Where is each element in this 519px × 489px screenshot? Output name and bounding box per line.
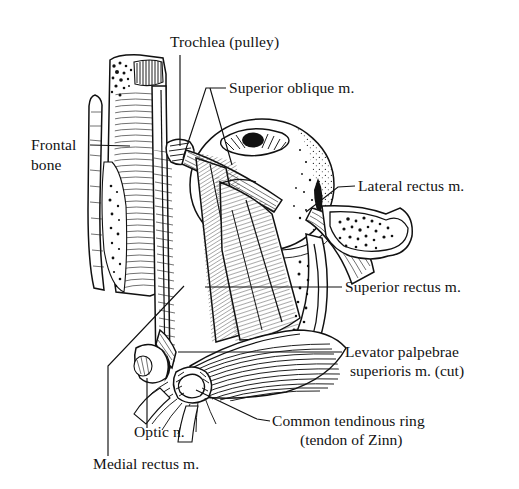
frontal-bone-label-line2: bone [31,156,62,173]
superior-rectus-label: Superior rectus m. [345,278,461,295]
anatomy-figure: Trochlea (pulley) Superior oblique m. Fr… [0,0,519,489]
levator-palpebrae-label: Levator palpebrae [345,343,459,360]
trochlea-label: Trochlea (pulley) [170,33,279,51]
levator-palpebrae-label-line2: superioris m. (cut) [350,362,464,380]
pupil [242,133,264,148]
supraorbital-canal [134,60,163,86]
anatomy-illustration: Trochlea (pulley) Superior oblique m. Fr… [0,0,519,489]
superior-oblique-label: Superior oblique m. [229,79,354,96]
medial-rectus-label: Medial rectus m. [93,455,199,472]
lateral-rectus-label: Lateral rectus m. [358,177,464,194]
common-tendinous-ring-label-line2: (tendon of Zinn) [300,431,402,449]
optic-nerve-label: Optic n. [134,423,185,440]
frontal-bone-label: Frontal [31,136,76,153]
common-tendinous-ring-label: Common tendinous ring [272,412,425,429]
